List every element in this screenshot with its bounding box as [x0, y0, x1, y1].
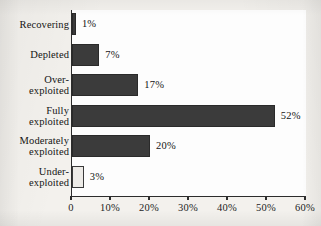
- bar-value-label: 52%: [281, 110, 301, 121]
- category-label: Under- exploited: [29, 166, 69, 188]
- category-label: Moderately exploited: [20, 135, 69, 157]
- x-tick-label: 40%: [217, 202, 237, 213]
- chart-row: Over- exploited17%: [0, 74, 321, 96]
- x-tick-mark: [265, 196, 266, 200]
- bar: [72, 105, 275, 127]
- bar-value-label: 1%: [82, 18, 96, 29]
- category-label: Fully exploited: [29, 105, 69, 127]
- bar: [72, 44, 99, 66]
- bar: [72, 166, 84, 188]
- x-tick-label: 60%: [295, 202, 315, 213]
- x-tick-mark: [70, 196, 71, 200]
- x-tick-mark: [109, 196, 110, 200]
- x-tick-mark: [148, 196, 149, 200]
- chart-row: Depleted7%: [0, 44, 321, 66]
- bar: [72, 135, 150, 157]
- x-tick-label: 0: [68, 202, 73, 213]
- chart-row: Moderately exploited20%: [0, 135, 321, 157]
- bar: [72, 13, 76, 35]
- bar-value-label: 3%: [90, 171, 104, 182]
- category-label: Depleted: [30, 49, 69, 60]
- chart-row: Recovering1%: [0, 13, 321, 35]
- bar-value-label: 17%: [144, 79, 164, 90]
- chart-page: 010%20%30%40%50%60% Recovering1%Depleted…: [0, 0, 321, 226]
- x-tick-mark: [226, 196, 227, 200]
- bar: [72, 74, 138, 96]
- x-tick-label: 30%: [178, 202, 198, 213]
- chart-row: Fully exploited52%: [0, 105, 321, 127]
- x-tick-label: 50%: [256, 202, 276, 213]
- x-tick-mark: [304, 196, 305, 200]
- category-label: Over- exploited: [29, 74, 69, 96]
- x-tick-label: 20%: [139, 202, 159, 213]
- bar-value-label: 7%: [105, 49, 119, 60]
- category-label: Recovering: [20, 19, 69, 30]
- x-tick-mark: [187, 196, 188, 200]
- bar-value-label: 20%: [156, 140, 176, 151]
- x-tick-label: 10%: [100, 202, 120, 213]
- chart-row: Under- exploited3%: [0, 166, 321, 188]
